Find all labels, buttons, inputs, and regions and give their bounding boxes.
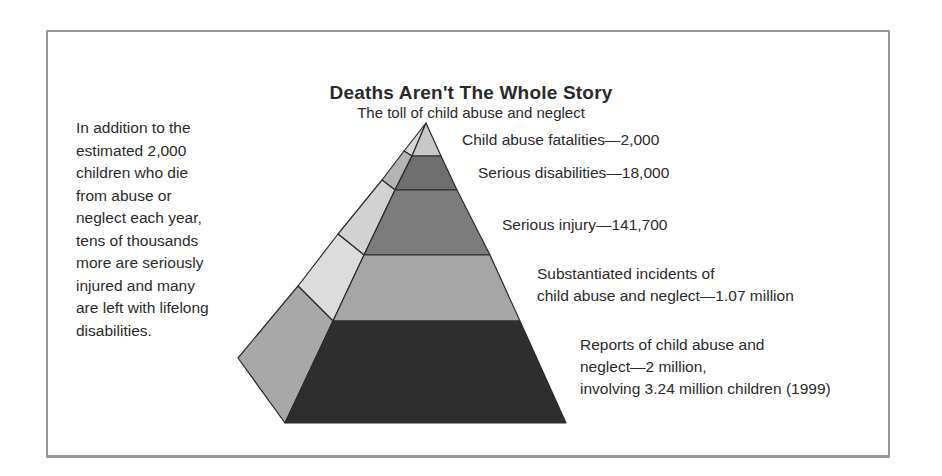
- pyramid-level-4: [333, 255, 520, 321]
- label-line: Child abuse fatalities—2,000: [462, 129, 659, 151]
- label-fatalities: Child abuse fatalities—2,000: [462, 129, 659, 151]
- label-line: Serious disabilities—18,000: [478, 162, 669, 184]
- label-serious-injury: Serious injury—141,700: [502, 214, 667, 236]
- label-substantiated-incidents: Substantiated incidents of child abuse a…: [537, 263, 794, 307]
- pyramid-graphic: [0, 0, 942, 476]
- pyramid-level-5: [285, 321, 566, 423]
- label-line: Serious injury—141,700: [502, 214, 667, 236]
- label-serious-disabilities: Serious disabilities—18,000: [478, 162, 669, 184]
- label-reports: Reports of child abuse and neglect—2 mil…: [580, 334, 831, 400]
- label-line: child abuse and neglect—1.07 million: [537, 285, 794, 307]
- label-line: involving 3.24 million children (1999): [580, 378, 831, 400]
- label-line: neglect—2 million,: [580, 356, 831, 378]
- label-line: Substantiated incidents of: [537, 263, 794, 285]
- label-line: Reports of child abuse and: [580, 334, 831, 356]
